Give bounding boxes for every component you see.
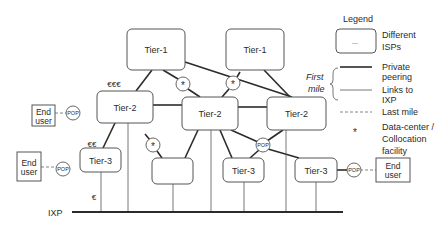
legend-isp-label-2: ISPs [382, 42, 402, 52]
private-peering-link [163, 70, 178, 79]
end-user-top-left: Enduser [32, 105, 55, 126]
first-mile-brace [330, 68, 338, 100]
cost-tier3-ixp-label: € [92, 193, 97, 202]
legend-ixp-label-2: IXP [382, 95, 397, 105]
private-peering-link [188, 89, 200, 97]
private-peering-link [267, 130, 283, 141]
legend-dc-label-3: facility [382, 146, 408, 156]
cost-tier2-tier3-label: €€ [88, 140, 97, 149]
private-peering-link [103, 123, 115, 148]
legend-last-mile-label: Last mile [382, 107, 418, 117]
legend-title: Legend [343, 14, 373, 24]
pop-label: POP [257, 142, 269, 148]
tier3-left-node: Tier-3 [80, 148, 121, 172]
private-peering-link [264, 70, 290, 97]
private-peering-link [157, 151, 162, 158]
node-label: Tier-3 [232, 166, 255, 176]
node-label: Tier-1 [144, 45, 167, 55]
ixp-layer: IXP [48, 208, 343, 218]
legend-dc-symbol: * [353, 127, 357, 138]
legend-dc-label-1: Data-center / [382, 122, 435, 132]
private-peering-link [237, 72, 240, 77]
end-user-bottom-left: Enduser [17, 152, 41, 181]
private-peering-link [185, 130, 198, 158]
node-label: Tier-1 [243, 45, 266, 55]
tier2-middle-node: Tier-2 [182, 97, 238, 130]
pop-label: POP [67, 110, 79, 116]
legend-private-label-2: peering [382, 72, 412, 82]
isp-box [152, 158, 193, 184]
legend-dc-label-2: Collocation [382, 134, 427, 144]
legend-first-mile-1: First [306, 72, 324, 82]
legend-isp-symbol: ... [352, 38, 358, 45]
asterisk-icon: * [231, 79, 235, 90]
node-label: Tier-2 [113, 103, 136, 113]
pop-top-left-icon: POP [66, 106, 80, 120]
unlabeled-isp-node [152, 158, 193, 184]
end-user-label-2: user [35, 116, 52, 126]
pop-label: POP [57, 166, 69, 172]
legend-ixp-label-1: Links to [382, 85, 413, 95]
tier2-right-node: Tier-2 [267, 97, 326, 130]
tier1-right-node: Tier-1 [226, 29, 284, 70]
legend-first-mile-2: mile [308, 84, 325, 94]
node-label: Tier-2 [198, 109, 221, 119]
ixp-label: IXP [48, 208, 63, 218]
asterisk-icon: * [151, 141, 155, 152]
tier3-right-node: Tier-3 [295, 158, 337, 182]
end-user-right: Enduser [376, 158, 410, 182]
tier1-left-node: Tier-1 [127, 29, 185, 70]
private-peering-link [231, 130, 258, 142]
private-peering-link [220, 130, 232, 158]
cost-tier1-tier2-label: €€€ [107, 80, 121, 89]
node-label: Tier-3 [89, 156, 112, 166]
end-user-label-2: user [21, 167, 38, 177]
end-user-label-2: user [385, 170, 402, 180]
dc-top-left-datacenter-icon: * [176, 77, 190, 91]
internet-topology-diagram: IXP Tier-1Tier-1Tier-2Tier-2Tier-2Tier-3… [0, 0, 448, 230]
pop-right-icon: POP [347, 163, 361, 177]
dc-top-right-datacenter-icon: * [226, 76, 240, 90]
pop-middle-icon: POP [256, 138, 270, 152]
private-peering-link [136, 70, 152, 91]
pop-bottom-left-icon: POP [56, 162, 70, 176]
pop-label: POP [348, 167, 360, 173]
legend: Legend ... Different ISPs First mile Pri… [306, 14, 435, 156]
legend-isp-label-1: Different [382, 30, 416, 40]
legend-private-label-1: Private [382, 62, 410, 72]
node-label: Tier-2 [285, 109, 308, 119]
private-peering-link [268, 149, 299, 158]
links-layer [41, 62, 376, 212]
tier2-left-node: Tier-2 [97, 91, 153, 123]
private-peering-link [250, 150, 259, 158]
asterisk-icon: * [181, 80, 185, 91]
tier3-middle-node: Tier-3 [223, 158, 264, 182]
node-label: Tier-3 [304, 166, 327, 176]
private-peering-link [222, 89, 229, 97]
dc-lower-left-datacenter-icon: * [146, 138, 160, 152]
